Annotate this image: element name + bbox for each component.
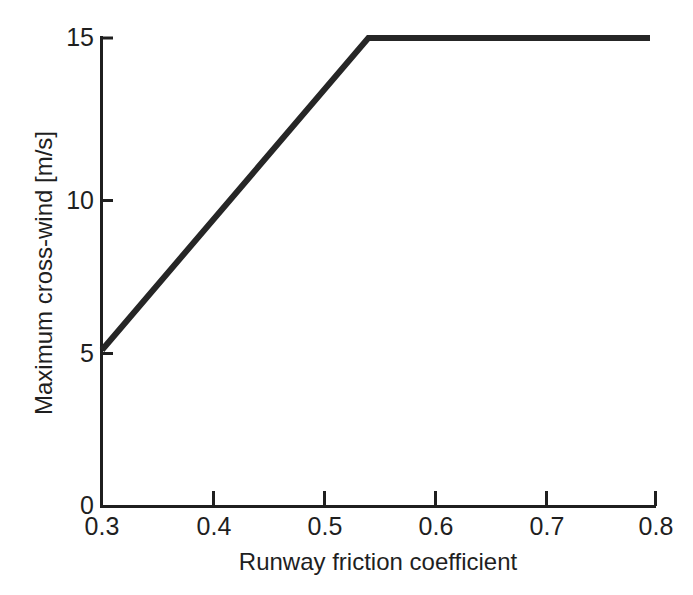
x-tick-label-0-8: 0.8 — [620, 514, 692, 539]
x-tick-label-0-3: 0.3 — [66, 514, 138, 539]
y-tick-label-10: 10 — [52, 188, 94, 213]
y-tick-label-5: 5 — [52, 341, 94, 366]
x-tick-label-0-5: 0.5 — [289, 514, 361, 539]
x-tick-label-0-6: 0.6 — [400, 514, 472, 539]
x-axis-title: Runway friction coefficient — [101, 548, 655, 576]
x-tick-label-0-7: 0.7 — [511, 514, 583, 539]
chart-plot-area — [0, 0, 693, 595]
x-tick-label-0-4: 0.4 — [178, 514, 250, 539]
y-axis-title: Maximum cross-wind [m/s] — [30, 38, 58, 508]
series-line-maximum-cross-wind — [102, 38, 650, 350]
chart-figure: 15 10 5 0 0.3 0.4 0.5 0.6 0.7 0.8 Runway… — [0, 0, 693, 595]
y-tick-label-15: 15 — [52, 25, 94, 50]
